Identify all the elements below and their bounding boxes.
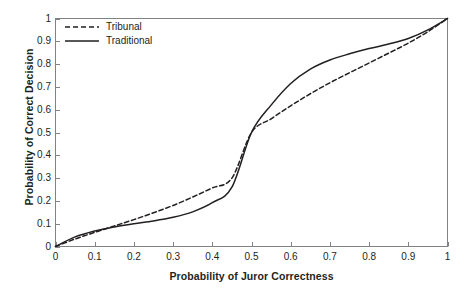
legend-item-traditional: Traditional [64, 34, 174, 48]
chart-figure: Probability of Correct Decision 00.10.20… [0, 0, 467, 294]
legend-swatch-dashed-icon [64, 22, 100, 32]
legend-item-tribunal: Tribunal [64, 20, 174, 34]
legend-label-traditional: Traditional [106, 36, 152, 46]
legend-swatch-solid-icon [64, 36, 100, 46]
legend-label-tribunal: Tribunal [106, 22, 142, 32]
chart-legend: Tribunal Traditional [64, 20, 174, 48]
